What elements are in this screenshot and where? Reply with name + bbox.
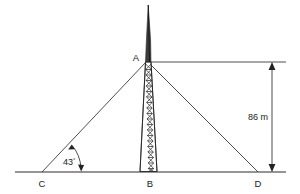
lattice-tower: [140, 62, 157, 172]
figure-canvas: 43° 86 m A C B D: [0, 0, 300, 194]
sight-line-ad: [149, 63, 258, 172]
antenna-spire: [146, 5, 152, 62]
geometry-figure: 43° 86 m A C B D: [0, 0, 300, 194]
dimension-label: 86 m: [248, 112, 268, 122]
point-label-a: A: [133, 52, 140, 63]
angle-label: 43°: [63, 157, 76, 167]
degree-symbol: °: [73, 157, 76, 163]
angle-value: 43: [63, 157, 73, 167]
angle-marker-43: 43°: [63, 145, 84, 172]
point-label-b: B: [147, 178, 153, 189]
dimension-arrow-top: [269, 62, 276, 70]
dimension-86m: 86 m: [248, 62, 275, 172]
angle-arrow-lower: [78, 165, 84, 172]
point-label-c: C: [39, 178, 46, 189]
sight-line-ca: [42, 62, 146, 172]
dimension-arrow-bottom: [269, 164, 276, 172]
point-label-d: D: [255, 178, 262, 189]
